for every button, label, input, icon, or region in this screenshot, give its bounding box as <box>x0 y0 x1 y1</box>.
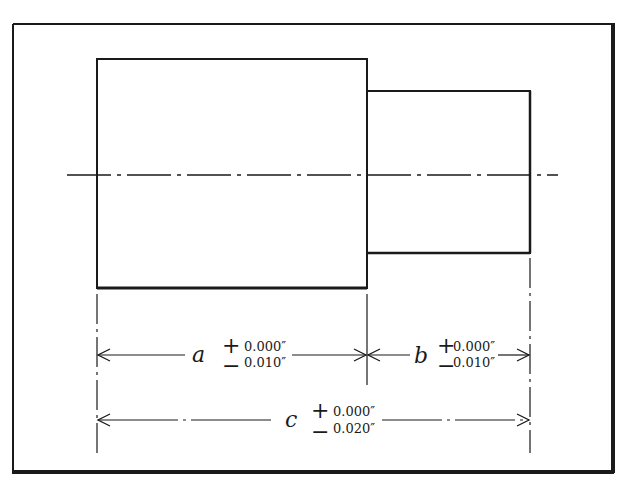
dimension-a-minus-tolerance: 0.010″ <box>244 355 286 370</box>
dimension-c-variable: c <box>285 407 297 432</box>
dimension-drawing: a + − 0.000″ 0.010″ b + − 0.000″ 0.010″ … <box>0 0 633 487</box>
dimension-b-variable: b <box>414 343 428 368</box>
dimension-c: c + − 0.000″ 0.020″ <box>98 398 529 444</box>
dimension-b-plus-tolerance: 0.000″ <box>453 339 495 354</box>
dimension-a-variable: a <box>192 342 205 367</box>
small-cylinder-outline <box>367 91 530 253</box>
dimension-c-minus-sign: − <box>311 419 329 444</box>
dimension-a-minus-sign: − <box>222 353 240 378</box>
dimension-c-plus-tolerance: 0.000″ <box>333 404 375 419</box>
dimension-a-plus-tolerance: 0.000″ <box>244 339 286 354</box>
dimension-b: b + − 0.000″ 0.010″ <box>368 333 529 378</box>
dimension-b-minus-tolerance: 0.010″ <box>453 355 495 370</box>
large-cylinder-outline <box>97 59 367 288</box>
dimension-c-minus-tolerance: 0.020″ <box>333 421 375 436</box>
dimension-a: a + − 0.000″ 0.010″ <box>98 333 366 378</box>
